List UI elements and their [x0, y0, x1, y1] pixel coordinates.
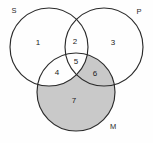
venn-diagram-svg: S P M 1 2 3 4 5 6 7	[0, 0, 153, 143]
venn-diagram-figure: S P M 1 2 3 4 5 6 7	[0, 0, 153, 143]
region-fill-6	[0, 0, 153, 143]
